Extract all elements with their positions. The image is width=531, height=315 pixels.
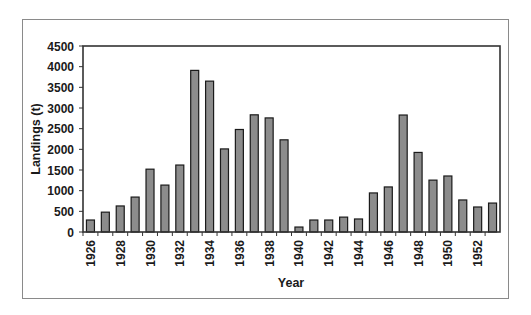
x-tick-label: 1940 (292, 240, 306, 267)
x-axis-title: Year (278, 276, 305, 290)
x-tick-label: 1928 (114, 240, 128, 267)
bar-1938 (265, 118, 273, 232)
x-axis-ticks: 1926192819301932193419361938194019421944… (83, 232, 485, 267)
bar-1946 (384, 187, 392, 232)
y-tick-label: 4000 (47, 60, 74, 74)
y-tick-label: 500 (54, 205, 74, 219)
bar-1948 (414, 152, 422, 232)
x-tick-label: 1948 (412, 240, 426, 267)
y-tick-label: 3500 (47, 81, 74, 95)
y-tick-label: 4500 (47, 40, 74, 54)
x-tick-label: 1952 (471, 240, 485, 267)
bar-1926 (86, 220, 94, 232)
bar-1944 (355, 219, 363, 232)
y-axis-ticks: 050010001500200025003000350040004500 (47, 40, 83, 240)
bar-1932 (176, 165, 184, 232)
bar-1950 (444, 176, 452, 232)
bar-1935 (220, 149, 228, 232)
bar-1943 (340, 217, 348, 232)
x-tick-label: 1934 (203, 240, 217, 267)
x-tick-label: 1946 (382, 240, 396, 267)
y-tick-label: 2000 (47, 143, 74, 157)
x-tick-label: 1926 (84, 240, 98, 267)
bar-1929 (131, 197, 139, 232)
y-tick-label: 0 (67, 226, 74, 240)
bar-1927 (101, 212, 109, 232)
bar-chart: 050010001500200025003000350040004500 192… (0, 0, 531, 315)
x-tick-label: 1938 (263, 240, 277, 267)
x-tick-label: 1932 (173, 240, 187, 267)
y-tick-label: 1500 (47, 164, 74, 178)
bar-1947 (399, 115, 407, 232)
y-tick-label: 3000 (47, 102, 74, 116)
x-tick-label: 1936 (233, 240, 247, 267)
bar-1941 (310, 220, 318, 232)
bar-1936 (235, 129, 243, 232)
bar-1949 (429, 180, 437, 232)
bar-1939 (280, 140, 288, 232)
y-tick-label: 1000 (47, 184, 74, 198)
bar-1937 (250, 115, 258, 232)
x-tick-label: 1930 (144, 240, 158, 267)
bar-1945 (369, 193, 377, 232)
x-tick-label: 1944 (352, 240, 366, 267)
y-tick-label: 2500 (47, 122, 74, 136)
x-tick-label: 1942 (322, 240, 336, 267)
x-tick-label: 1950 (441, 240, 455, 267)
bars (86, 70, 496, 232)
bar-1953 (489, 203, 497, 232)
bar-1934 (206, 81, 214, 232)
bar-1951 (459, 200, 467, 232)
bar-1928 (116, 206, 124, 232)
y-axis-title: Landings (t) (29, 103, 43, 175)
bar-1952 (474, 207, 482, 232)
bar-1931 (161, 185, 169, 232)
bar-1930 (146, 169, 154, 232)
bar-1933 (191, 70, 199, 232)
bar-1942 (325, 220, 333, 232)
